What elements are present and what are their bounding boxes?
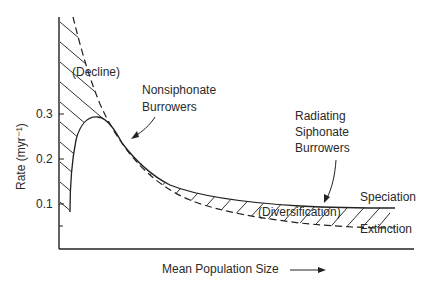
decline-hatch [40, 0, 140, 270]
tick-label-0.1: 0.1 [36, 197, 53, 211]
nonsiphonate-label-2: Burrowers [142, 100, 197, 114]
radiating-label-1: Radiating [295, 109, 346, 123]
extinction-curve [73, 17, 395, 228]
x-axis-label: Mean Population Size [162, 262, 279, 276]
y-axis-label: Rate (myr⁻¹) [14, 123, 28, 190]
radiating-arrow [324, 160, 336, 203]
tick-label-0.3: 0.3 [36, 107, 53, 121]
decline-label: (Decline) [72, 65, 120, 79]
nonsiphonate-label-1: Nonsiphonate [142, 83, 216, 97]
nonsiphonate-arrow [131, 117, 155, 139]
diversification-label: (Diversification) [258, 205, 341, 219]
speciation-label: Speciation [360, 190, 416, 204]
x-axis-arrow [290, 267, 326, 273]
radiating-label-2: Siphonate [295, 125, 349, 139]
tick-label-0.2: 0.2 [36, 152, 53, 166]
chart: 0.3 0.2 0.1 Rate (myr⁻¹) Mean Population… [0, 0, 430, 283]
radiating-label-3: Burrowers [295, 141, 350, 155]
extinction-label: Extinction [360, 222, 412, 236]
